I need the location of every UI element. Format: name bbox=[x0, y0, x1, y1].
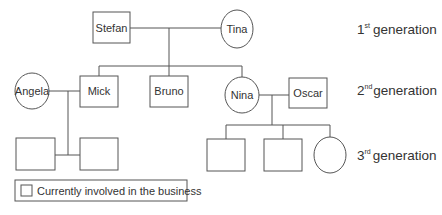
person-angela: Angela bbox=[15, 73, 50, 109]
legend-swatch-square bbox=[21, 185, 32, 196]
name-label: Mick bbox=[88, 85, 111, 97]
svg-text:1stgeneration: 1stgeneration bbox=[357, 22, 437, 37]
gen-ordinal: 2 bbox=[357, 83, 365, 98]
name-label: Nina bbox=[231, 89, 255, 101]
name-label: Bruno bbox=[154, 85, 183, 97]
gen-suffix: rd bbox=[365, 148, 371, 155]
person-stefan: Stefan bbox=[93, 12, 130, 43]
legend: Currently involved in the business bbox=[15, 180, 202, 201]
name-label: Angela bbox=[15, 85, 50, 97]
gen-text: generation bbox=[373, 148, 437, 163]
person-tina: Tina bbox=[221, 10, 253, 48]
person-child2-square bbox=[80, 138, 118, 170]
person-child4-square bbox=[264, 139, 302, 171]
person-bruno: Bruno bbox=[150, 76, 188, 107]
person-mick: Mick bbox=[80, 76, 118, 107]
gen-suffix: nd bbox=[365, 83, 373, 90]
person-child3-square bbox=[207, 139, 245, 171]
person-nina: Nina bbox=[225, 77, 259, 113]
gen-ordinal: 3 bbox=[357, 148, 365, 163]
name-label: Stefan bbox=[96, 22, 128, 34]
gen-text: generation bbox=[373, 22, 437, 37]
generation-label-3: 3rdgeneration bbox=[357, 148, 437, 163]
person-child5-circle bbox=[314, 137, 346, 173]
person-oscar: Oscar bbox=[289, 78, 327, 108]
generation-label-2: 2ndgeneration bbox=[357, 83, 437, 98]
name-label: Tina bbox=[227, 23, 249, 35]
gen-suffix: st bbox=[365, 22, 371, 29]
svg-text:3rdgeneration: 3rdgeneration bbox=[357, 148, 437, 163]
family-tree-diagram: Stefan Tina Angela Mick Bruno Nina Oscar… bbox=[0, 0, 442, 215]
person-child1-square bbox=[16, 138, 55, 170]
legend-label: Currently involved in the business bbox=[37, 185, 202, 197]
gen-ordinal: 1 bbox=[357, 22, 365, 37]
generation-label-1: 1stgeneration bbox=[357, 22, 437, 37]
svg-text:2ndgeneration: 2ndgeneration bbox=[357, 83, 437, 98]
name-label: Oscar bbox=[293, 87, 323, 99]
gen-text: generation bbox=[373, 83, 437, 98]
